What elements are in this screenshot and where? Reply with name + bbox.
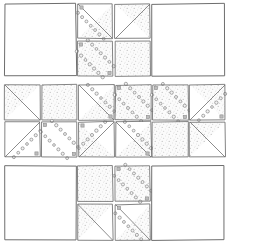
stipple-upper-left-fill (78, 166, 113, 202)
bead-motif (85, 20, 88, 23)
bead-motif (128, 168, 131, 171)
bead-end-marker (146, 115, 149, 118)
hst-plain-stipple-m1c1 (5, 85, 41, 120)
stipple-square-m2c5 (152, 122, 188, 158)
bead-end-marker (145, 197, 148, 200)
bead-end-marker (108, 71, 111, 74)
bead-motif (132, 172, 135, 175)
hst-beads-m1c6 (190, 84, 227, 121)
bead-motif (142, 100, 145, 103)
bead-motif (72, 141, 75, 144)
hst-beads-upper-left (76, 4, 112, 40)
bead-motif (68, 137, 71, 140)
bead-motif (121, 183, 124, 186)
bead-motif (104, 101, 107, 104)
bead-end-marker (154, 86, 157, 89)
bead-motif (130, 192, 133, 195)
stipple-square-m1c2-fill (42, 85, 77, 120)
bead-motif (170, 91, 173, 94)
bead-motif (91, 88, 94, 91)
bead-motif (145, 142, 148, 145)
hst-plain-upper-right (115, 4, 150, 39)
bead-motif (94, 29, 97, 32)
bead-motif (100, 97, 103, 100)
bead-motif (117, 179, 120, 182)
large-plain-square-bottom-right (152, 166, 224, 241)
bead-motif (219, 97, 222, 100)
bead-motif (97, 71, 100, 74)
hst-plain-stipple-m2c6 (190, 122, 226, 157)
bead-motif (81, 16, 84, 19)
beads-double-m1c5 (150, 82, 190, 122)
bead-motif (57, 148, 60, 151)
hst-beads-m2c4 (116, 120, 153, 157)
bead-end-marker (183, 115, 186, 118)
bead-motif (137, 176, 140, 179)
bead-motif (59, 128, 62, 131)
bead-motif (168, 111, 171, 114)
bead-motif (55, 124, 58, 127)
bead-motif (108, 60, 111, 63)
bead-motif (132, 129, 135, 132)
bead-motif (118, 98, 121, 101)
bead-motif (206, 110, 209, 113)
large-plain-square-bottom-right-fill (152, 166, 224, 240)
hst-beads-lower-right (114, 204, 150, 241)
quilt-diagram (0, 0, 258, 252)
bead-end-marker (79, 43, 82, 46)
bead-motif (126, 187, 129, 190)
large-plain-square-bottom-left (5, 166, 76, 240)
bead-end-marker (80, 6, 83, 9)
stipple-upper-left (78, 166, 113, 202)
bead-motif (141, 138, 144, 141)
bead-end-marker (109, 115, 112, 118)
bead-motif (34, 134, 37, 137)
bead-motif (95, 48, 98, 51)
bead-motif (108, 105, 111, 108)
bead-motif (64, 133, 67, 136)
bead-motif (215, 101, 218, 104)
bead-motif (138, 96, 141, 99)
bead-motif (135, 233, 138, 236)
beads-double-m2c2-fill (42, 122, 77, 157)
bead-motif (88, 63, 91, 66)
bead-motif (145, 185, 148, 188)
large-plain-square-top-left-fill (5, 4, 76, 76)
stipple-lower-right-fill (116, 42, 151, 77)
bead-motif (99, 125, 102, 128)
bead-motif (17, 151, 20, 154)
hst-beads-m2c1 (5, 122, 41, 159)
bead-motif (175, 96, 178, 99)
bead-motif (95, 92, 98, 95)
hst-beads-m1c3 (79, 83, 116, 120)
bead-end-marker (43, 123, 46, 126)
bead-motif (131, 229, 134, 232)
bead-motif (129, 87, 132, 90)
bead-motif (164, 107, 167, 110)
bead-motif (44, 135, 47, 138)
beads-double-m2c2 (39, 119, 79, 159)
hst-beads-m2c3 (77, 120, 114, 157)
bead-motif (128, 125, 131, 128)
beads-double-m1c4 (113, 82, 153, 122)
large-plain-square-top-right (152, 3, 225, 76)
beads-full-lower-left (75, 39, 115, 79)
top-band (5, 3, 225, 79)
bead-motif (53, 144, 56, 147)
stipple-square-m1c2 (42, 84, 77, 120)
bead-motif (26, 143, 29, 146)
hst-plain-lower-left (78, 204, 113, 240)
large-plain-square-bottom-left-fill (5, 166, 76, 240)
bead-motif (86, 138, 89, 141)
bead-end-marker (72, 152, 75, 155)
bead-motif (159, 102, 162, 105)
bead-motif (89, 24, 92, 27)
bead-motif (21, 147, 24, 150)
beads-double-upper-right-fill (116, 166, 151, 202)
bead-motif (166, 87, 169, 90)
bead-motif (48, 139, 51, 142)
bead-motif (172, 115, 175, 118)
bead-end-marker (117, 167, 120, 170)
bead-motif (95, 129, 98, 132)
bottom-band (5, 163, 224, 240)
